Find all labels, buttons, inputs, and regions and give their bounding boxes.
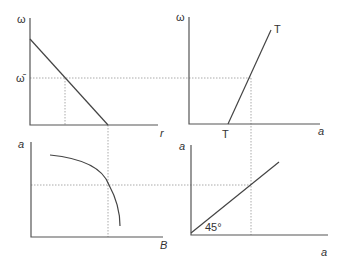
four-quadrant-diagram: ω r ω̄ ω T T a a B a 45° a (0, 0, 345, 262)
bottom-left-x-label: B (160, 239, 167, 251)
guide-lines (30, 78, 251, 237)
tt-bottom-label: T (222, 128, 229, 140)
tt-line (228, 30, 271, 124)
top-left-downward-line (30, 39, 108, 125)
bottom-left-y-label: a (18, 138, 24, 150)
top-right-y-label: ω (176, 11, 185, 23)
top-right-x-label: a (318, 125, 324, 137)
bottom-left-frontier-curve (50, 155, 120, 226)
curves (30, 30, 279, 233)
bottom-right-y-label: a (179, 140, 185, 152)
angle-label: 45° (205, 221, 222, 233)
axes (30, 17, 328, 237)
top-right-axes (189, 17, 320, 124)
omega-bar-tick-label: ω̄ (16, 72, 27, 84)
bottom-right-x-label: a (321, 246, 327, 258)
top-left-y-label: ω (17, 13, 26, 25)
tt-top-label: T (274, 23, 281, 35)
bottom-left-axes (31, 142, 163, 237)
top-left-x-label: r (160, 127, 165, 139)
